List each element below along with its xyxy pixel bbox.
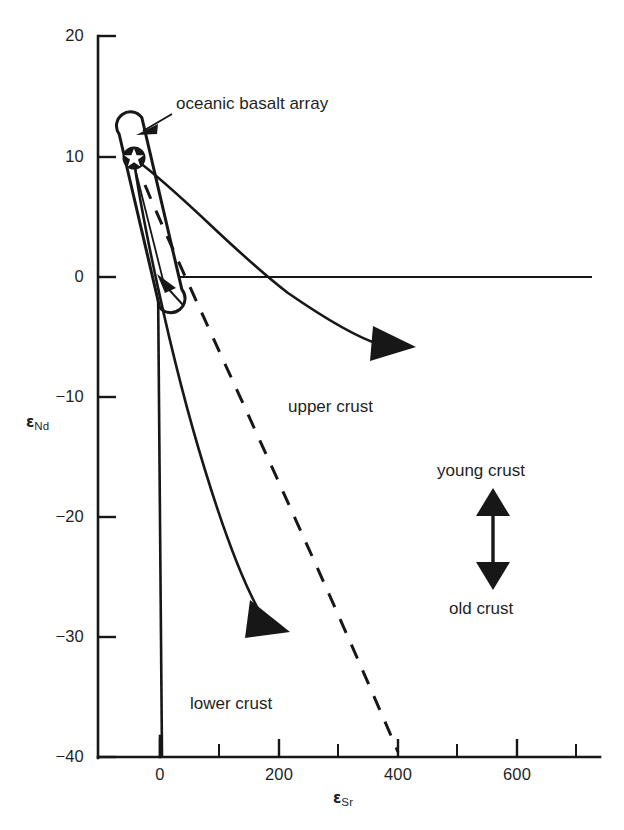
upper-crust-label: upper crust (288, 398, 373, 415)
chart-figure: 20 10 0 −10 −20 −30 −40 0 200 400 600 εN… (0, 0, 624, 830)
old-crust-label: old crust (449, 600, 513, 617)
y-tick-label-minus-10: −10 (20, 388, 84, 405)
x-tick-label-600: 600 (487, 766, 547, 783)
left-vertical-guide-line (158, 282, 162, 757)
x-axis-subscript: Sr (341, 796, 353, 808)
y-tick-label-0: 0 (28, 268, 84, 285)
arrow-down-head-icon (476, 562, 510, 590)
y-tick-label-minus-40: −40 (20, 748, 84, 765)
x-tick-label-0: 0 (130, 766, 190, 783)
lower-crust-label: lower crust (190, 695, 272, 712)
oceanic-basalt-array-region (116, 111, 185, 314)
arrow-up-head-icon (476, 488, 510, 516)
y-tick-label-minus-20: −20 (20, 508, 84, 525)
bulk-earth-star-marker (123, 147, 146, 170)
y-tick-label-10: 10 (28, 148, 84, 165)
x-tick-label-200: 200 (249, 766, 309, 783)
young-old-crust-double-arrow (476, 488, 510, 590)
oceanic-basalt-array-label: oceanic basalt array (176, 95, 328, 112)
x-axis-title: εSr (333, 790, 353, 806)
upper-crust-arrowhead (370, 326, 416, 361)
bulk-crust-dashed-trend (145, 185, 398, 752)
y-tick-label-20: 20 (28, 27, 84, 44)
lower-crust-arrowhead (245, 600, 290, 638)
x-tick-label-400: 400 (368, 766, 428, 783)
y-axis-subscript: Nd (34, 420, 49, 432)
y-axis-title: εNd (26, 414, 49, 430)
y-tick-label-minus-30: −30 (20, 628, 84, 645)
young-crust-label: young crust (437, 462, 525, 479)
